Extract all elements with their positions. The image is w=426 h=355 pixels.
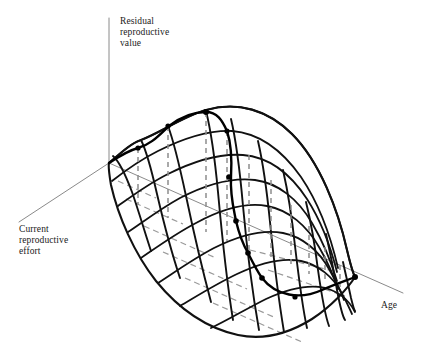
ridge-data-point-4 bbox=[224, 128, 229, 133]
ridge-data-point-2 bbox=[165, 123, 170, 128]
surface-outline bbox=[109, 107, 355, 337]
ridge-data-point-6 bbox=[233, 218, 239, 224]
current-reproductive-effort-axis bbox=[19, 163, 109, 222]
residual-reproductive-value-label: Residualreproductivevalue bbox=[120, 16, 169, 48]
three-d-surface-figure: Residualreproductivevalue Currentreprodu… bbox=[0, 0, 426, 355]
age-curve-3 bbox=[168, 126, 211, 302]
ridge-data-point-10 bbox=[352, 274, 358, 280]
base-dash-1 bbox=[126, 199, 183, 224]
ridge-data-point-1 bbox=[135, 145, 140, 150]
ridge-drop-lines bbox=[138, 112, 340, 287]
age-curve-1 bbox=[113, 156, 151, 251]
ridge-data-point-5 bbox=[226, 174, 232, 180]
axes-group bbox=[19, 18, 403, 293]
age-curve-5 bbox=[231, 119, 259, 330]
ridge-data-point-3 bbox=[203, 109, 209, 115]
age-curve-2 bbox=[141, 140, 180, 278]
ridge-data-point-7 bbox=[245, 250, 251, 256]
ridge-data-point-8 bbox=[259, 275, 265, 281]
current-reproductive-effort-label: Currentreproductiveeffort bbox=[19, 224, 68, 256]
ridge-data-point-9 bbox=[292, 294, 297, 299]
age-label: Age bbox=[381, 300, 397, 310]
